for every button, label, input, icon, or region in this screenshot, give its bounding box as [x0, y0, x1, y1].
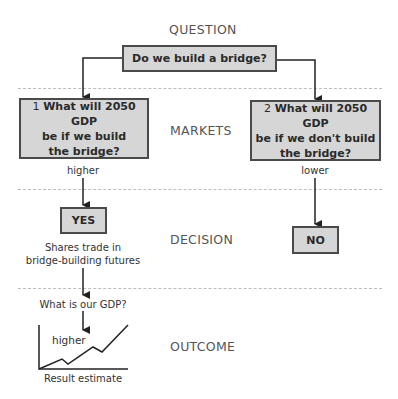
market-text-line: the bridge?: [280, 146, 351, 161]
market-text-line: What will 2050 GDP: [43, 100, 135, 128]
market-box-no-build: 2 What will 2050 GDP be if we don't buil…: [250, 100, 381, 161]
yes-caption: Shares trade in bridge-building futures: [18, 241, 148, 267]
market-result-lower: lower: [295, 164, 335, 177]
decision-yes-label: YES: [72, 213, 95, 228]
market-text-line: be if we don't build: [256, 131, 376, 146]
yes-caption-line: bridge-building futures: [18, 254, 148, 267]
market-result-higher: higher: [63, 164, 103, 177]
question-box: Do we build a bridge?: [122, 45, 277, 72]
market-number: 1: [32, 100, 39, 113]
market-text-line: What will 2050 GDP: [275, 102, 367, 130]
question-text: Do we build a bridge?: [132, 51, 267, 66]
yes-caption-line: Shares trade in: [18, 241, 148, 254]
market-box-build: 1 What will 2050 GDP be if we build the …: [19, 98, 149, 159]
market-text-line: be if we build: [42, 129, 126, 144]
market-number: 2: [264, 102, 271, 115]
decision-yes-box: YES: [60, 207, 107, 234]
outcome-question: What is our GDP?: [28, 298, 138, 311]
decision-no-label: NO: [306, 233, 325, 248]
chart-caption: Result estimate: [28, 372, 138, 385]
market-text-line: the bridge?: [48, 144, 119, 159]
chart-label-higher: higher: [52, 334, 86, 347]
decision-no-box: NO: [292, 226, 339, 254]
